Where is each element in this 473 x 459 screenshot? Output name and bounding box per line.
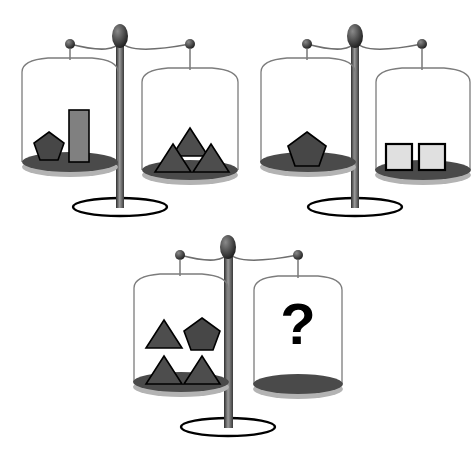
beam-wire-left (70, 40, 120, 49)
shape-pentagon[interactable] (184, 318, 220, 350)
unknown-question-mark: ? (280, 291, 315, 356)
center-post-lower (116, 190, 124, 208)
hanger-knob-icon (185, 39, 195, 49)
beam-wire-right (228, 251, 298, 260)
scale-one[interactable] (8, 22, 236, 222)
center-post-lower (224, 410, 233, 428)
beam-wire-left (307, 40, 355, 49)
left-pan[interactable] (260, 39, 356, 177)
shape-square[interactable] (386, 144, 412, 170)
center-post (116, 38, 124, 208)
pan-dish (253, 374, 343, 394)
right-pan[interactable] (375, 39, 471, 185)
shape-triangle[interactable] (146, 320, 182, 348)
beam-wire-right (120, 40, 190, 49)
scale-two[interactable] (255, 22, 473, 222)
hanger-knob-icon (417, 39, 427, 49)
shape-triangle[interactable] (184, 356, 220, 384)
shape-pentagon[interactable] (34, 132, 64, 160)
shape-bar[interactable] (69, 110, 89, 162)
beam-wire-left (180, 251, 228, 260)
shape-triangle[interactable] (146, 356, 182, 384)
left-pan[interactable] (22, 39, 118, 177)
fulcrum-knob-icon (347, 24, 363, 48)
right-pan[interactable]: ? (253, 250, 343, 399)
scale-three[interactable]: ? (128, 232, 358, 442)
hanger-knob-icon (302, 39, 312, 49)
hanger-knob-icon (175, 250, 185, 260)
left-pan[interactable] (133, 250, 229, 397)
fulcrum-knob-icon (220, 235, 236, 259)
right-pan[interactable] (142, 39, 238, 185)
beam-wire-right (355, 40, 422, 49)
fulcrum-knob-icon (112, 24, 128, 48)
hanger-knob-icon (293, 250, 303, 260)
center-post-lower (351, 190, 359, 208)
puzzle-canvas: ? (0, 0, 473, 459)
shape-square[interactable] (419, 144, 445, 170)
hanger-knob-icon (65, 39, 75, 49)
shape-pentagon[interactable] (288, 132, 326, 166)
